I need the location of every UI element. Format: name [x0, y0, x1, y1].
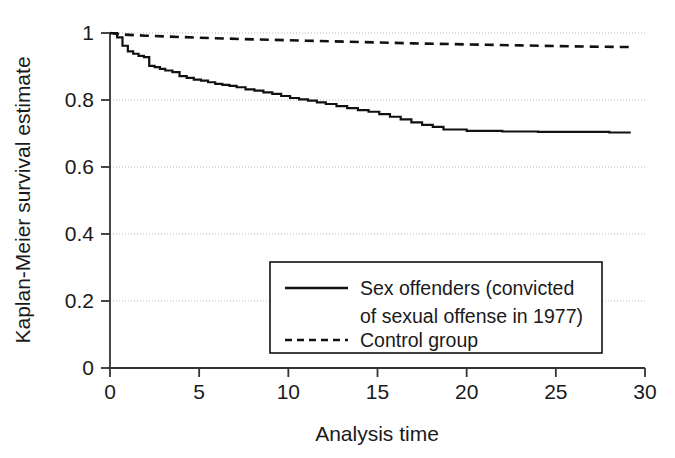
x-axis-title: Analysis time: [315, 422, 439, 445]
y-tick-label: 0.2: [65, 289, 94, 312]
x-tick-label: 10: [277, 380, 300, 403]
survival-plot: 051015202530 00.20.40.60.81 Analysis tim…: [0, 0, 675, 458]
x-tick-label: 5: [193, 380, 205, 403]
legend: Sex offenders (convicted of sexual offen…: [270, 262, 602, 353]
legend-label-sex-offenders-line1: Sex offenders (convicted: [360, 277, 574, 299]
x-tick-label: 25: [544, 380, 567, 403]
legend-label-sex-offenders-line2: of sexual offense in 1977): [360, 305, 583, 327]
kaplan-meier-figure: 051015202530 00.20.40.60.81 Analysis tim…: [0, 0, 675, 458]
x-tick-label: 20: [455, 380, 478, 403]
y-tick-label: 0.4: [65, 222, 95, 245]
y-axis-title: Kaplan-Meier survival estimate: [11, 56, 34, 343]
y-tick-label: 0.6: [65, 155, 94, 178]
x-tick-label: 30: [633, 380, 656, 403]
legend-label-control-group: Control group: [360, 329, 478, 351]
y-tick-label: 1: [82, 21, 94, 44]
x-tick-label: 0: [104, 380, 116, 403]
y-tick-label: 0: [82, 356, 94, 379]
y-tick-label: 0.8: [65, 88, 94, 111]
figure-background: [0, 0, 675, 458]
x-tick-label: 15: [366, 380, 389, 403]
